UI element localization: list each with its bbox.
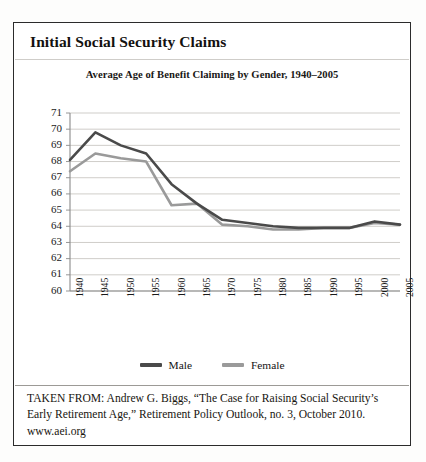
series-line-male — [70, 132, 400, 227]
legend-item-male: Male — [140, 359, 192, 371]
data-series-group — [70, 132, 400, 229]
x-tick-label: 1980 — [277, 278, 288, 297]
legend-label-female: Female — [251, 359, 285, 371]
y-tick-label: 60 — [36, 284, 62, 296]
x-tick-label: 1970 — [226, 278, 237, 297]
x-tick-label: 1945 — [99, 278, 110, 297]
axis-lines — [66, 113, 400, 291]
source-caption: TAKEN FROM: Andrew G. Biggs, “The Case f… — [27, 391, 399, 440]
figure-frame: Initial Social Security Claims Average A… — [13, 22, 411, 446]
x-tick-label: 1950 — [125, 278, 136, 297]
y-tick-label: 65 — [36, 203, 62, 215]
legend-item-female: Female — [222, 359, 285, 371]
caption-divider — [15, 385, 409, 386]
y-tick-label: 62 — [36, 251, 62, 263]
x-tick-label: 1960 — [176, 278, 187, 297]
x-tick-label: 2005 — [404, 278, 415, 297]
figure-page: Initial Social Security Claims Average A… — [0, 0, 426, 462]
x-tick-label: 1975 — [252, 278, 263, 297]
x-tick-label: 2000 — [379, 278, 390, 297]
x-tick-label: 1940 — [74, 278, 85, 297]
y-tick-label: 69 — [36, 138, 62, 150]
legend-swatch-female-icon — [222, 363, 244, 368]
legend-swatch-male-icon — [140, 363, 162, 368]
x-tick-label: 1990 — [328, 278, 339, 297]
x-tick-label: 1985 — [302, 278, 313, 297]
line-chart — [14, 23, 410, 445]
series-line-female — [70, 153, 400, 229]
x-tick-label: 1955 — [150, 278, 161, 297]
y-tick-label: 61 — [36, 267, 62, 279]
chart-plot-area: 606162636465666768697071 194019451950195… — [14, 23, 410, 445]
y-tick-label: 67 — [36, 170, 62, 182]
gridlines — [70, 113, 400, 291]
y-tick-label: 66 — [36, 186, 62, 198]
y-tick-label: 71 — [36, 106, 62, 118]
chart-legend: Male Female — [14, 359, 410, 371]
y-tick-label: 64 — [36, 219, 62, 231]
legend-label-male: Male — [169, 359, 192, 371]
x-tick-label: 1995 — [353, 278, 364, 297]
y-tick-label: 63 — [36, 235, 62, 247]
y-tick-label: 68 — [36, 154, 62, 166]
x-tick-label: 1965 — [201, 278, 212, 297]
y-tick-label: 70 — [36, 122, 62, 134]
